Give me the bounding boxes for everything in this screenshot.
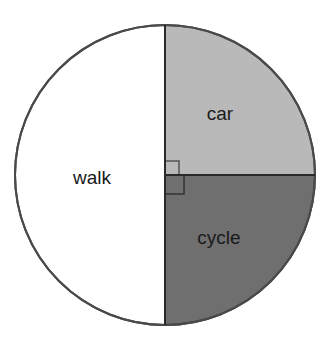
slice-car: [165, 25, 315, 175]
label-cycle: cycle: [197, 227, 240, 248]
pie-chart: walk car cycle: [0, 0, 334, 345]
label-car: car: [207, 103, 234, 124]
slice-cycle: [165, 175, 315, 325]
label-walk: walk: [72, 167, 112, 188]
pie-chart-svg: walk car cycle: [0, 0, 334, 345]
